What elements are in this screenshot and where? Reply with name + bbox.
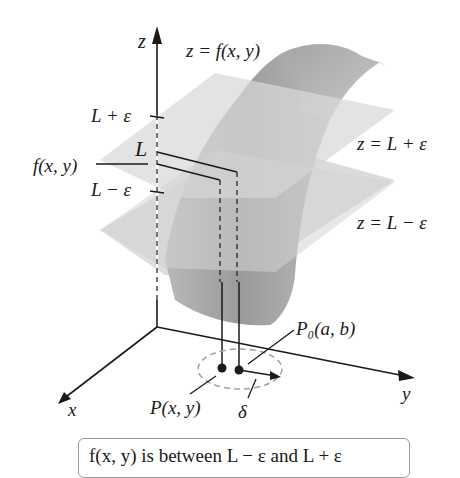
point-p xyxy=(218,364,227,373)
y-axis-label: y xyxy=(400,383,411,404)
z-axis-label: z xyxy=(137,30,146,52)
surface-label: z = f(x, y) xyxy=(185,40,260,62)
tick-label-L: L xyxy=(134,136,147,161)
delta-arrow xyxy=(270,371,281,380)
caption-text: f(x, y) is between L − ε and L + ε xyxy=(89,445,342,466)
p-pointer xyxy=(190,376,216,394)
x-axis xyxy=(62,327,157,400)
lower-plane-label: z = L − ε xyxy=(356,212,427,233)
tick-label-lower: L − ε xyxy=(90,179,132,200)
y-axis xyxy=(157,327,410,377)
delta-label: δ xyxy=(238,401,248,422)
upper-plane-label: z = L + ε xyxy=(356,133,427,154)
z-axis-arrow xyxy=(152,26,162,44)
p-label: P(x, y) xyxy=(149,397,201,419)
tick-label-upper: L + ε xyxy=(90,105,132,126)
tick-label-fxy: f(x, y) xyxy=(33,155,77,177)
p0-label: P₀(a, b) xyxy=(295,318,355,340)
y-axis-arrow xyxy=(398,370,415,381)
point-p0 xyxy=(235,366,244,375)
caption-box: f(x, y) is between L − ε and L + ε xyxy=(78,438,410,478)
x-axis-label: x xyxy=(67,399,77,420)
